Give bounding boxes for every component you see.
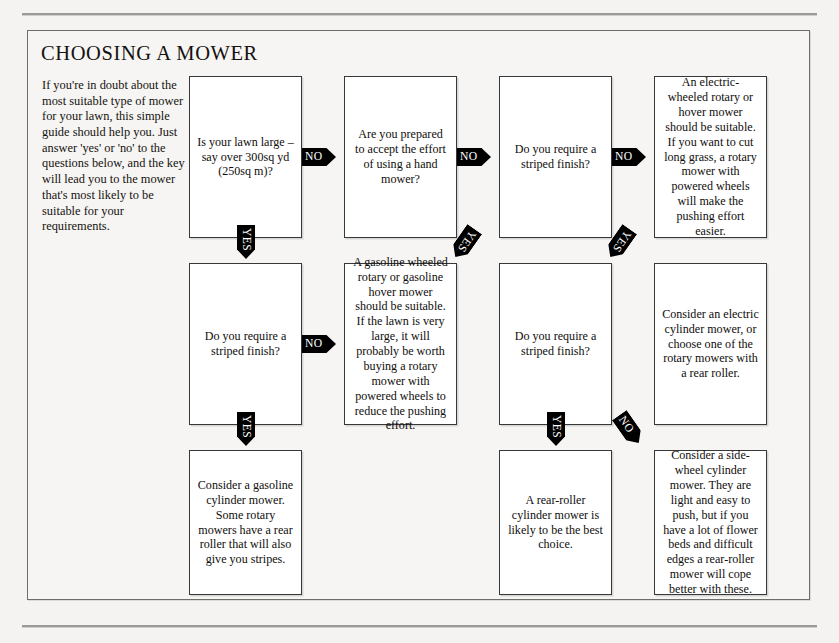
flow-box-r3c2[interactable]: Consider a gasoline cylinder mower. Some… (189, 450, 302, 595)
flow-box-r2c4[interactable]: Consider an electric cylinder mower, or … (654, 263, 767, 425)
flow-box-r2c2[interactable]: A gasoline wheeled rotary or gasoline ho… (344, 263, 457, 425)
flow-box-text: A gasoline wheeled rotary or gasoline ho… (345, 255, 456, 434)
connector-label: NO (302, 335, 336, 353)
flow-box-r1c3[interactable]: Do you require a striped finish? (499, 76, 612, 238)
connector-no-r2c3-to-r3c4: NO (612, 410, 646, 448)
connector-label: YES (237, 225, 255, 259)
bottom-rule (22, 625, 817, 627)
flow-box-text: Do you require a striped finish? (190, 329, 301, 359)
intro-paragraph: If you're in doubt about the most suitab… (42, 78, 190, 235)
page-background: CHOOSING A MOWER If you're in doubt abou… (0, 0, 839, 643)
flow-box-text: A rear-roller cylinder mower is likely t… (500, 493, 611, 553)
connector-label: YES (237, 412, 255, 446)
flow-box-text: Consider a gasoline cylinder mower. Some… (190, 478, 301, 567)
top-rule (22, 13, 817, 15)
connector-label: NO (612, 148, 646, 166)
connector-no-r1c1-to-r1c2: NO (302, 148, 336, 166)
connector-yes-r1c1-to-r2c1: YES (237, 225, 255, 259)
connector-no-r2c1-to-r2c2: NO (302, 335, 336, 353)
flow-box-text: Consider an electric cylinder mower, or … (655, 307, 766, 381)
connector-yes-r2c1-to-r3c2: YES (237, 412, 255, 446)
flow-box-text: Do you require a striped finish? (500, 329, 611, 359)
connector-label: NO (302, 148, 336, 166)
flow-box-text: Do you require a striped finish? (500, 142, 611, 172)
chart-panel: CHOOSING A MOWER If you're in doubt abou… (27, 30, 810, 600)
connector-no-r1c2-to-r1c3: NO (457, 148, 491, 166)
flow-box-text: An electric-wheeled rotary or hover mowe… (655, 75, 766, 239)
flow-box-r2c1[interactable]: Do you require a striped finish? (189, 263, 302, 425)
flow-box-r1c2[interactable]: Are you prepared to accept the effort of… (344, 76, 457, 238)
connector-label: YES (547, 412, 565, 446)
page-title: CHOOSING A MOWER (41, 42, 258, 65)
flow-box-r3c3[interactable]: A rear-roller cylinder mower is likely t… (499, 450, 612, 595)
flow-box-r2c3[interactable]: Do you require a striped finish? (499, 263, 612, 425)
connector-label: NO (457, 148, 491, 166)
flow-box-r3c4[interactable]: Consider a side-wheel cylinder mower. Th… (654, 450, 767, 595)
flow-box-r1c1[interactable]: Is your lawn large – say over 300sq yd (… (189, 76, 302, 238)
flow-box-text: Are you prepared to accept the effort of… (345, 127, 456, 187)
connector-yes-r2c3-to-r3c3: YES (547, 412, 565, 446)
flow-box-text: Consider a side-wheel cylinder mower. Th… (655, 448, 766, 597)
flow-box-text: Is your lawn large – say over 300sq yd (… (190, 135, 301, 180)
flow-box-r1c4[interactable]: An electric-wheeled rotary or hover mowe… (654, 76, 767, 238)
connector-no-r1c3-to-r1c4: NO (612, 148, 646, 166)
connector-label: NO (612, 410, 646, 448)
